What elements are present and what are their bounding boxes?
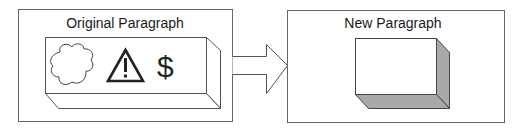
new-paragraph-box xyxy=(356,39,450,109)
diagram-canvas: Original Paragraph $ New Paragraph xyxy=(0,0,523,129)
block-arrow-right-icon xyxy=(233,45,288,94)
new-paragraph-title: New Paragraph xyxy=(344,15,441,31)
original-paragraph-title: Original Paragraph xyxy=(66,15,184,31)
dollar-icon: $ xyxy=(157,50,174,83)
